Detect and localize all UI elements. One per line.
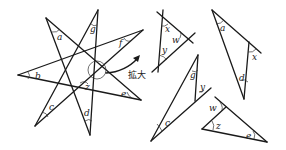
angle-label-y-2: y [199, 82, 206, 92]
angle-label-f: f [118, 38, 124, 48]
angle-label-b: b [35, 71, 41, 81]
angle-label-c: c [49, 102, 54, 112]
angle-label-x-2: x [252, 52, 257, 62]
angle-label-c-2: c [165, 118, 170, 128]
angle-label-w-1: w [172, 35, 180, 45]
angle-label-x-1: x [165, 24, 170, 34]
angle-label-a: a [57, 32, 62, 42]
angle-label-y-1: y [161, 45, 168, 55]
angle-label-d: d [84, 108, 90, 118]
zoom-circle [88, 61, 106, 79]
angle-label-g-2: g [190, 70, 196, 80]
angle-label-e: e [121, 89, 126, 99]
diagram-svg: a b c d e f g z 拡大 x w y a x [0, 0, 286, 150]
angle-label-w-2: w [209, 103, 217, 113]
triangle-gyc [151, 55, 211, 141]
angle-label-a-2: a [220, 23, 225, 33]
angle-label-d-2: d [239, 73, 245, 83]
angle-label-z: z [84, 82, 90, 92]
geometry-figure: a b c d e f g z 拡大 x w y a x [0, 0, 286, 150]
angle-label-z-2: z [215, 121, 221, 131]
zoom-callout-label: 拡大 [128, 69, 146, 80]
angle-label-e-2: e [246, 131, 251, 141]
angle-label-g: g [90, 24, 96, 34]
